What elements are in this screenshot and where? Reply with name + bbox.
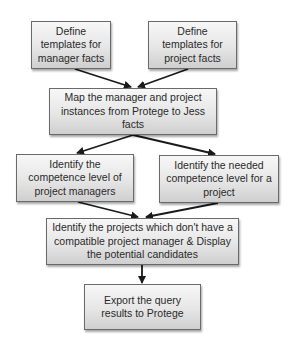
arrow-n3-n4 [77, 135, 133, 153]
node-export-results: Export the query results to Protege [84, 284, 201, 330]
node-label: Map the manager and project instances fr… [61, 91, 205, 132]
arrow-n1-n3 [75, 69, 131, 87]
arrow-n5-n6 [146, 203, 218, 217]
node-label: Export the query results to Protege [101, 294, 183, 321]
node-identify-projects: Identify the projects which don't have a… [46, 218, 239, 265]
node-label: Identify the needed competence level for… [166, 159, 272, 200]
arrow-n2-n3 [138, 69, 188, 87]
arrow-n4-n6 [78, 202, 138, 217]
flowchart: Define templates for manager facts Defin… [0, 0, 294, 350]
node-map-instances: Map the manager and project instances fr… [49, 88, 217, 135]
node-label: Define templates for project facts [162, 25, 223, 66]
arrow-n3-n5 [133, 135, 215, 154]
node-label: Identify the competence level of project… [28, 158, 121, 199]
node-define-manager-templates: Define templates for manager facts [31, 21, 111, 69]
node-manager-competence: Identify the competence level of project… [16, 154, 134, 202]
node-define-project-templates: Define templates for project facts [148, 21, 237, 69]
node-label: Identify the projects which don't have a… [52, 221, 233, 262]
node-label: Define templates for manager facts [38, 25, 105, 66]
node-project-competence: Identify the needed competence level for… [159, 155, 279, 203]
